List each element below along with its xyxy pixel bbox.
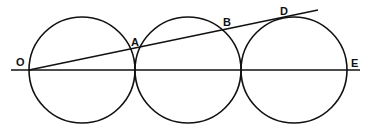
label-b: B	[223, 16, 231, 28]
label-o: O	[16, 56, 25, 68]
label-e: E	[351, 57, 358, 69]
label-a: A	[131, 36, 139, 48]
geometry-diagram: O A B D E	[0, 0, 367, 132]
diagram-canvas: O A B D E	[0, 0, 367, 132]
label-d: D	[280, 5, 288, 17]
